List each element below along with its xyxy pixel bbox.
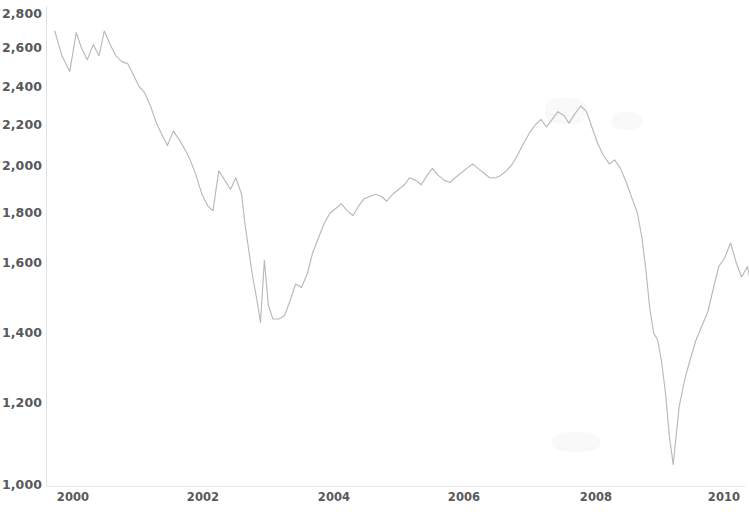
x-tick-label: 2006 <box>434 492 494 504</box>
line-chart: 2,8002,6002,4002,2002,0001,8001,6001,400… <box>0 0 749 512</box>
y-tick-label: 2,600 <box>0 42 42 55</box>
y-tick-label: 1,400 <box>0 327 42 340</box>
y-tick-label: 1,800 <box>0 207 42 220</box>
y-tick-label: 2,200 <box>0 119 42 132</box>
y-tick-label: 1,600 <box>0 257 42 270</box>
data-series-line <box>55 31 749 465</box>
y-tick-label: 2,800 <box>0 8 42 21</box>
x-tick-label: 2000 <box>43 492 103 504</box>
x-tick-label: 2004 <box>304 492 364 504</box>
y-tick-label: 1,200 <box>0 397 42 410</box>
x-tick-label: 2010 <box>694 492 749 504</box>
x-tick-label: 2002 <box>173 492 233 504</box>
y-tick-label: 1,000 <box>0 479 42 492</box>
plot-area <box>0 0 749 512</box>
y-tick-label: 2,000 <box>0 160 42 173</box>
y-tick-label: 2,400 <box>0 81 42 94</box>
x-tick-label: 2008 <box>566 492 626 504</box>
